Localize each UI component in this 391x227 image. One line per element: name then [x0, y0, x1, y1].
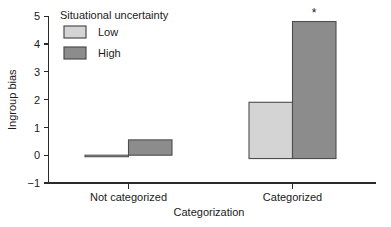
legend-title: Situational uncertainty — [60, 9, 169, 21]
chart-container: 5 4 3 2 1 0 −1 Ingroup bias Not categori… — [0, 0, 391, 227]
y-tick-label-4: 4 — [34, 38, 40, 50]
x-tick-label-categorized: Categorized — [263, 191, 322, 203]
y-tick-label-2: 2 — [34, 94, 40, 106]
legend-label-high: High — [98, 47, 121, 59]
y-tick-label-3: 3 — [34, 66, 40, 78]
y-tick-label-5: 5 — [34, 10, 40, 22]
bar-categorized-high — [293, 22, 337, 159]
bar-not-categorized-low — [85, 155, 129, 157]
legend-swatch-high — [64, 47, 86, 59]
significance-asterisk: * — [312, 6, 317, 20]
legend-swatch-low — [64, 26, 86, 38]
y-tick-label-1: 1 — [34, 122, 40, 134]
ingroup-bias-bar-chart: 5 4 3 2 1 0 −1 Ingroup bias Not categori… — [0, 0, 391, 227]
y-tick-label-0: 0 — [34, 149, 40, 161]
legend-label-low: Low — [98, 26, 118, 38]
y-axis-title: Ingroup bias — [6, 69, 18, 130]
y-tick-label-neg1: −1 — [27, 177, 40, 189]
x-axis-title: Categorization — [174, 206, 245, 218]
bar-categorized-low — [249, 102, 293, 158]
bar-not-categorized-high — [129, 140, 173, 155]
x-tick-label-not-categorized: Not categorized — [90, 191, 167, 203]
